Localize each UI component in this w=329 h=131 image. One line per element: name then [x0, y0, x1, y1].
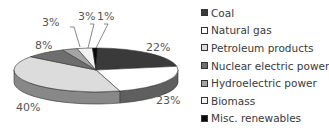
legend-item-hydro: Hydroelectric power [201, 74, 329, 92]
legend-label: Misc. renewables [211, 112, 301, 124]
pie-chart: 22% 23% 40% 8% 3% 3% 1% [0, 0, 200, 131]
legend-swatch-icon [201, 62, 208, 69]
legend-swatch-icon [201, 9, 208, 16]
legend-item-nuclear: Nuclear electric power [201, 57, 329, 75]
legend-label: Biomass [211, 95, 255, 107]
legend-item-biomass: Biomass [201, 92, 329, 110]
data-label-misc: 1% [97, 11, 114, 22]
data-label-hydro: 3% [42, 17, 59, 28]
data-label-nuclear: 8% [35, 40, 52, 51]
data-label-natural-gas: 23% [156, 95, 180, 106]
legend-swatch-icon [201, 80, 208, 87]
legend-label: Petroleum products [211, 42, 314, 54]
legend-swatch-icon [201, 27, 208, 34]
legend: Coal Natural gas Petroleum products Nucl… [201, 4, 329, 127]
legend-label: Hydroelectric power [211, 77, 317, 89]
legend-label: Coal [211, 7, 234, 19]
legend-label: Natural gas [211, 24, 272, 36]
legend-swatch-icon [201, 115, 208, 122]
legend-item-petroleum: Petroleum products [201, 39, 329, 57]
legend-item-natural-gas: Natural gas [201, 22, 329, 40]
data-label-petroleum: 40% [16, 102, 40, 113]
legend-label: Nuclear electric power [211, 60, 329, 72]
legend-swatch-icon [201, 44, 208, 51]
data-label-coal: 22% [146, 42, 170, 53]
legend-swatch-icon [201, 97, 208, 104]
legend-item-misc: Misc. renewables [201, 110, 329, 128]
data-label-biomass: 3% [78, 11, 95, 22]
legend-item-coal: Coal [201, 4, 329, 22]
